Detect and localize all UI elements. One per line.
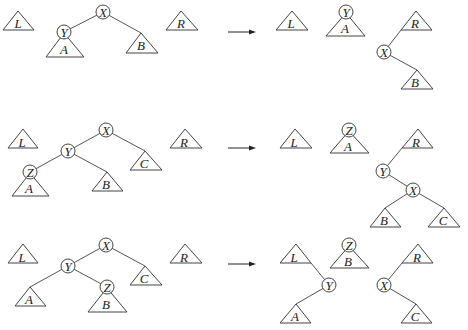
arrow-zig	[228, 30, 256, 35]
svg-text:A: A	[290, 309, 299, 324]
node-Y: Y	[61, 259, 75, 274]
svg-text:B: B	[380, 213, 388, 228]
subtree-L: L	[8, 129, 38, 150]
svg-text:C: C	[411, 309, 420, 324]
label-R: R	[176, 16, 185, 31]
subtree-R: R	[166, 11, 198, 31]
row-zig-before: L A B R X Y	[3, 5, 198, 58]
svg-text:L: L	[17, 135, 25, 150]
subtree-B: B	[92, 172, 123, 192]
node-Y: Y	[339, 5, 353, 20]
node-Y: Y	[57, 25, 71, 40]
node-Z: Z	[342, 123, 356, 138]
node-Y: Y	[322, 278, 336, 293]
svg-text:X: X	[379, 278, 389, 293]
svg-text:X: X	[98, 5, 108, 20]
row-zig-after: L A Y R B X	[276, 5, 433, 90]
subtree-R: R	[402, 244, 433, 265]
subtree-R: R	[401, 11, 432, 31]
row-zigzig-before: L A B C R X Y Z	[8, 123, 202, 197]
subtree-L: L	[280, 244, 311, 265]
node-X: X	[99, 238, 113, 253]
subtree-R: R	[170, 244, 202, 265]
svg-text:L: L	[289, 250, 297, 265]
subtree-R: R	[170, 129, 202, 150]
subtree-R: R	[402, 129, 433, 150]
svg-text:C: C	[439, 213, 448, 228]
svg-text:R: R	[412, 250, 421, 265]
arrow-zigzig	[228, 146, 256, 151]
subtree-B: B	[401, 70, 433, 90]
svg-text:R: R	[411, 135, 420, 150]
arrow-zigzag	[228, 262, 256, 267]
svg-text:Z: Z	[345, 238, 353, 253]
svg-text:L: L	[286, 16, 294, 31]
svg-text:B: B	[411, 75, 419, 90]
node-X: X	[406, 183, 420, 198]
subtree-A: A	[15, 287, 46, 307]
row-zigzag-after: L A Y B Z R C X	[280, 238, 433, 324]
svg-text:A: A	[340, 21, 349, 36]
subtree-L: L	[276, 11, 308, 31]
svg-text:R: R	[410, 16, 419, 31]
svg-text:X: X	[101, 123, 111, 138]
node-X: X	[96, 5, 110, 20]
svg-text:B: B	[102, 177, 110, 192]
node-Y: Y	[61, 144, 75, 159]
svg-text:Z: Z	[345, 123, 353, 138]
subtree-C: C	[401, 304, 432, 324]
row-zigzig-after: L A Z R B C Y X	[280, 123, 460, 228]
node-Y: Y	[376, 164, 390, 179]
svg-text:C: C	[140, 156, 149, 171]
svg-text:X: X	[408, 183, 418, 198]
subtree-C: C	[130, 266, 162, 286]
subtree-L: L	[280, 129, 312, 150]
subtree-L: L	[3, 11, 34, 31]
svg-text:A: A	[24, 181, 33, 196]
subtree-B: B	[126, 33, 158, 53]
subtree-A: A	[280, 304, 311, 324]
node-Z: Z	[342, 238, 356, 253]
svg-text:X: X	[379, 45, 389, 60]
node-X: X	[99, 123, 113, 138]
svg-text:A: A	[24, 292, 33, 307]
svg-text:B: B	[344, 254, 352, 269]
svg-text:R: R	[179, 250, 188, 265]
subtree-B: B	[370, 208, 401, 228]
subtree-C: C	[428, 208, 460, 228]
subtree-C: C	[130, 151, 162, 171]
svg-text:L: L	[17, 250, 25, 265]
node-Z: Z	[100, 280, 114, 295]
node-X: X	[377, 45, 391, 60]
svg-text:Z: Z	[103, 280, 111, 295]
svg-text:A: A	[343, 139, 352, 154]
label-B: B	[137, 38, 145, 53]
node-X: X	[377, 278, 391, 293]
label-L: L	[13, 16, 21, 31]
subtree-L: L	[8, 244, 38, 265]
node-Z: Z	[23, 165, 37, 180]
svg-text:L: L	[289, 135, 297, 150]
svg-text:Z: Z	[26, 165, 34, 180]
splay-tree-diagram: L A B R X Y	[0, 0, 468, 330]
row-zigzag-before: L A B Z C R X Y	[8, 238, 202, 313]
svg-text:C: C	[140, 271, 149, 286]
svg-text:R: R	[179, 135, 188, 150]
svg-text:B: B	[102, 297, 110, 312]
label-A: A	[59, 42, 68, 57]
svg-text:X: X	[101, 238, 111, 253]
